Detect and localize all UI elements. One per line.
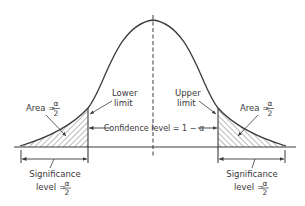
lower-limit-label-line1: Lower [112,88,138,98]
upper-limit-leader [199,101,216,114]
left-area-alpha: α [54,99,59,108]
right-area-denominator: 2 [268,109,273,118]
left-significance-leader [50,159,54,168]
left-significance-alpha: α [65,179,70,188]
upper-limit-label-line1: Upper [175,88,201,98]
left-significance-label-line1: Significance [29,169,80,179]
right-significance-leader [252,159,255,168]
lower-limit-label-line2: limit [114,98,133,108]
left-significance-denominator: 2 [65,188,70,197]
right-area-label: Area = [240,103,269,113]
right-significance-alpha: α [263,179,268,188]
left-area-label: Area = [26,103,55,113]
lower-limit-leader [90,101,112,114]
right-tail-shaded-area [218,108,286,147]
left-significance-label-prefix: level = [36,182,66,192]
right-significance-label-line1: Significance [226,169,277,179]
right-area-alpha: α [268,99,273,108]
upper-limit-label-line2: limit [177,98,196,108]
right-significance-denominator: 2 [263,188,268,197]
confidence-level-label: Confidence level = 1 − α [104,124,205,133]
left-area-denominator: 2 [54,109,59,118]
confidence-interval-diagram: Confidence level = 1 − α Lower limit Upp… [0,0,305,206]
right-significance-label-prefix: level = [234,182,264,192]
